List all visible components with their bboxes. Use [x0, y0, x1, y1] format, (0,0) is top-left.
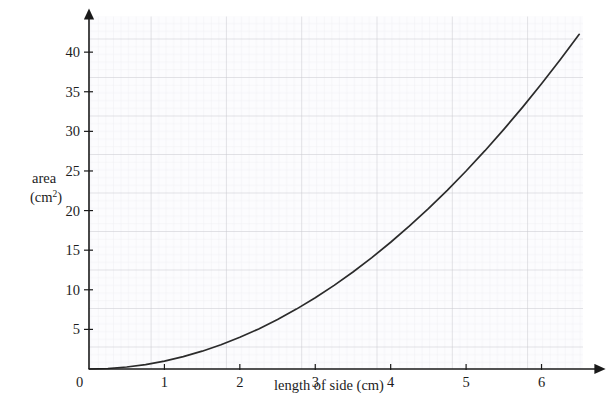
plot-area: 0123456 510152025303540 length of side (… — [0, 0, 609, 412]
grid-paper — [89, 17, 583, 370]
y-axis-unit-open: (cm — [30, 189, 53, 206]
graph-figure: 0123456 510152025303540 length of side (… — [0, 0, 609, 412]
y-tick-label: 35 — [66, 84, 81, 100]
y-tick-label: 15 — [66, 242, 81, 258]
x-tick-label: 1 — [161, 374, 168, 390]
x-tick-label: 6 — [538, 374, 545, 390]
y-axis-title-line2: (cm2) — [30, 189, 62, 206]
y-tick-label: 20 — [66, 203, 81, 219]
x-axis-title: length of side (cm) — [274, 377, 384, 394]
y-axis-title-line1: area — [32, 170, 57, 186]
y-axis-unit-close: ) — [57, 189, 62, 206]
x-tick-label: 2 — [236, 374, 243, 390]
x-tick-label: 0 — [76, 374, 83, 390]
y-tick-label: 10 — [66, 282, 81, 298]
y-tick-label: 40 — [66, 44, 81, 60]
x-tick-label: 4 — [387, 374, 395, 390]
x-tick-label: 5 — [462, 374, 469, 390]
y-tick-label: 5 — [73, 321, 80, 337]
y-tick-label: 30 — [66, 123, 81, 139]
y-tick-label: 25 — [66, 163, 81, 179]
